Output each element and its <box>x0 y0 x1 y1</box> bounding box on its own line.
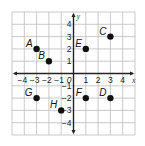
point-b: B <box>38 50 52 64</box>
point-label: A <box>25 38 33 49</box>
y-tick-label: 1 <box>67 56 72 66</box>
y-tick-label: 2 <box>67 44 72 54</box>
point-label: B <box>38 50 45 61</box>
coordinate-plane: −4−3−2−112344321−1−2−3−40 ABCDEFGH x y <box>0 0 145 146</box>
origin-label: 0 <box>67 75 72 85</box>
point-label: E <box>75 38 82 49</box>
axes <box>13 13 134 134</box>
point-label: G <box>25 87 33 98</box>
point-label: H <box>50 99 58 110</box>
point-label: C <box>99 26 107 37</box>
y-tick-label: −2 <box>62 93 72 103</box>
point-marker <box>46 58 52 64</box>
x-tick-label: 3 <box>108 75 113 85</box>
point-label: D <box>99 87 106 98</box>
point-marker <box>107 95 113 101</box>
point-marker <box>83 46 89 52</box>
point-marker <box>58 107 64 113</box>
x-axis-arrow-left-icon <box>13 72 17 76</box>
y-axis-arrow-down-icon <box>72 130 76 134</box>
point-g: G <box>25 87 40 101</box>
y-tick-label: 4 <box>67 19 72 29</box>
point-marker <box>83 95 89 101</box>
point-marker <box>107 33 113 39</box>
x-tick-label: 4 <box>120 75 125 85</box>
point-d: D <box>99 87 113 101</box>
y-axis-arrow-up-icon <box>72 13 76 17</box>
y-axis-label: y <box>76 12 81 21</box>
point-marker <box>33 95 39 101</box>
x-axis-label: x <box>131 76 136 85</box>
y-tick-label: 3 <box>67 32 72 42</box>
x-tick-label: −2 <box>42 75 52 85</box>
y-tick-label: −4 <box>62 118 72 128</box>
x-tick-label: 2 <box>96 75 101 85</box>
point-c: C <box>99 26 113 40</box>
point-label: F <box>76 87 83 98</box>
point-e: E <box>75 38 89 52</box>
x-tick-label: 1 <box>83 75 88 85</box>
point-f: F <box>76 87 89 101</box>
x-tick-label: −4 <box>17 75 27 85</box>
x-tick-label: −3 <box>30 75 40 85</box>
